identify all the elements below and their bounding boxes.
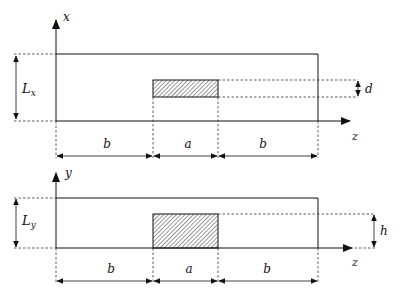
x-axis-label: x bbox=[63, 10, 70, 24]
segment-b2-label-side: b bbox=[263, 262, 271, 276]
inclusion-side-view bbox=[153, 214, 218, 248]
segment-b1-label: b bbox=[103, 137, 111, 151]
lx-label: Lx bbox=[21, 81, 36, 98]
z-axis-label: z bbox=[351, 130, 358, 143]
segment-b2-label: b bbox=[259, 137, 267, 151]
d-label: d bbox=[365, 82, 373, 96]
segment-a-label: a bbox=[184, 137, 191, 151]
y-axis-label: y bbox=[64, 166, 72, 180]
segment-b1-label-side: b bbox=[107, 262, 115, 276]
top-view: x z Lx d b a b bbox=[14, 10, 373, 158]
segment-a-label-side: a bbox=[185, 262, 192, 276]
side-view: y z Ly h b a b bbox=[14, 166, 388, 283]
inclusion-top-view bbox=[153, 80, 218, 97]
ly-label: Ly bbox=[21, 213, 37, 230]
z-axis-label-side: z bbox=[351, 256, 358, 269]
h-label: h bbox=[380, 224, 388, 238]
diagram-canvas: x z Lx d b a b y bbox=[0, 0, 400, 297]
